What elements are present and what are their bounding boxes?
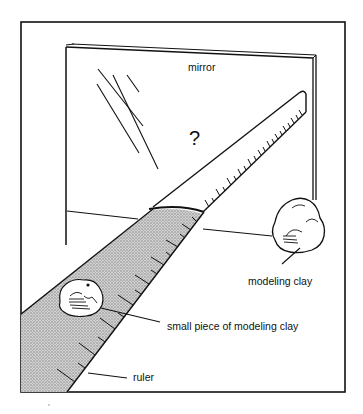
ruler-label: ruler [133, 372, 154, 383]
modeling-clay-label: modeling clay [248, 276, 312, 287]
diagram-canvas [0, 0, 363, 414]
mirror-label: mirror [188, 62, 215, 73]
question-mark: ? [189, 128, 200, 148]
small-clay-blob [60, 280, 104, 317]
small-clay-label: small piece of modeling clay [167, 321, 298, 332]
stray-dot [48, 404, 49, 405]
